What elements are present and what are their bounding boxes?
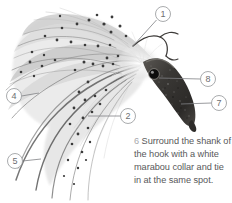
caption-text: Surround the shank of the hook with a wh… [134,136,231,185]
callout-4-label: 4 [11,91,16,101]
caption-block: 6 Surround the shank of the hook with a … [134,135,232,187]
caption-step-number: 6 [134,136,139,146]
callout-2-label: 2 [125,111,130,121]
callout-8-label: 8 [205,74,210,84]
figure-page: 124578 6 Surround the shank of the hook … [0,0,232,203]
fly-eye [149,69,160,80]
callout-5-label: 5 [12,156,17,166]
callout-1-label: 1 [160,9,165,19]
callout-7-label: 7 [216,98,221,108]
